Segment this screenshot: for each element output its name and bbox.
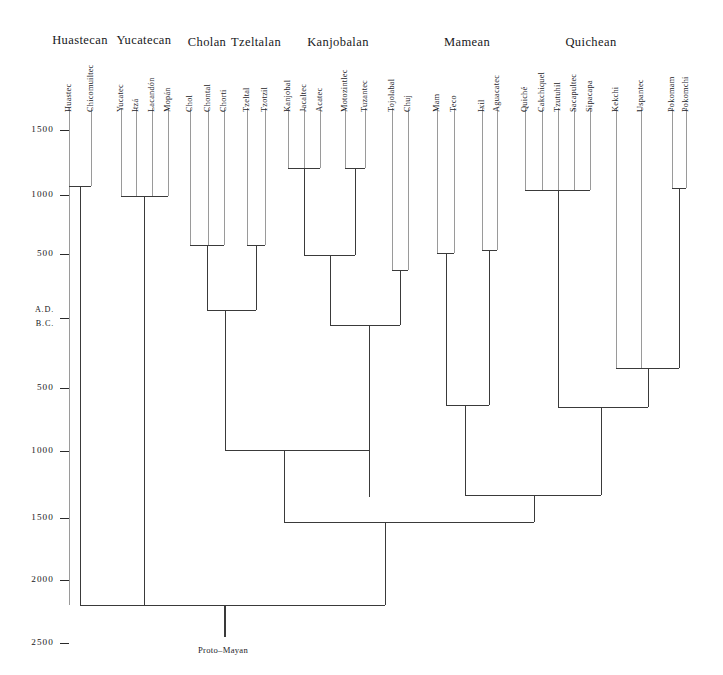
axis-tick-2500-643: 2500: [31, 637, 54, 647]
leaf-label-chuj: Chuj: [403, 95, 412, 112]
leaf-label-sacapultec: Sacapultec: [569, 74, 578, 112]
leaf-label-aguacatec: Aguacatec: [492, 75, 501, 112]
leaf-label-quich: Quiché: [520, 87, 529, 112]
group-label-mamean: Mamean: [444, 35, 490, 50]
leaf-label-sipacapa: Sipacapa: [585, 80, 594, 112]
group-label-yucatecan: Yucatecan: [117, 33, 172, 48]
axis-tick-1500-518: 1500: [31, 512, 54, 522]
internal-node-lines: [69, 168, 686, 637]
group-label-cholan: Cholan: [188, 35, 227, 50]
leaf-label-yucatec: Yucatec: [116, 84, 125, 112]
group-label-quichean: Quichean: [565, 35, 616, 50]
leaf-label-pokomchi: Pokomchi: [681, 76, 690, 112]
leaf-label-tzutuhil: Tzutuhil: [553, 82, 562, 112]
leaf-branch-lines: [69, 108, 686, 605]
group-label-huastecan: Huastecan: [52, 33, 108, 48]
leaf-label-itz: Itzá: [131, 99, 140, 112]
leaf-label-pokomam: Pokomam: [667, 77, 676, 112]
leaf-label-tuzantec: Tuzantec: [360, 80, 369, 112]
leaf-label-cakchiquel: Cakchiquel: [537, 72, 546, 112]
leaf-label-huastec: Huastec: [64, 84, 73, 112]
leaf-label-jacaltec: Jacaltec: [299, 84, 308, 112]
leaf-label-chol: Chol: [185, 95, 194, 112]
leaf-label-acatec: Acatec: [315, 88, 324, 112]
cladogram-figure: HuastecanYucatecanCholanTzeltalanKanjoba…: [0, 0, 723, 675]
leaf-label-mopn: Mopán: [163, 87, 172, 112]
axis-tick-1000-451: 1000: [31, 445, 54, 455]
axis-tick-marks: [60, 130, 69, 643]
leaf-label-tzeltal: Tzeltal: [242, 87, 251, 112]
axis-tick-1500-130: 1500: [31, 124, 54, 134]
leaf-label-ixil: Ixil: [477, 100, 486, 112]
group-label-kanjobalan: Kanjobalan: [307, 35, 369, 50]
axis-tick-500-388: 500: [37, 382, 54, 392]
axis-tick-bc-325: B.C.: [36, 319, 54, 328]
group-label-tzeltalan: Tzeltalan: [231, 35, 281, 50]
leaf-label-tzotzil: Tzotzil: [260, 87, 269, 112]
leaf-label-lacandn: Lacandón: [147, 77, 156, 112]
leaf-label-kanjobal: Kanjobal: [283, 80, 292, 112]
leaf-label-uspantec: Uspantec: [636, 79, 645, 112]
leaf-label-kekchi: Kekchi: [611, 87, 620, 112]
axis-tick-ad-311: A.D.: [35, 305, 54, 314]
leaf-label-tojolabal: Tojolabal: [387, 79, 396, 112]
leaf-label-teco: Teco: [449, 95, 458, 112]
leaf-label-chontal: Chontal: [203, 84, 212, 112]
leaf-label-mam: Mam: [432, 94, 441, 112]
leaf-label-chicomuiltec: Chicomuiltec: [86, 64, 95, 112]
leaf-label-motozintlec: Motozintlec: [340, 69, 349, 112]
root-label: Proto–Mayan: [198, 645, 248, 655]
leaf-label-chorti: Chorti: [219, 89, 228, 112]
axis-tick-2000-580: 2000: [31, 574, 54, 584]
axis-tick-500-254: 500: [37, 248, 54, 258]
axis-tick-1000-195: 1000: [31, 189, 54, 199]
